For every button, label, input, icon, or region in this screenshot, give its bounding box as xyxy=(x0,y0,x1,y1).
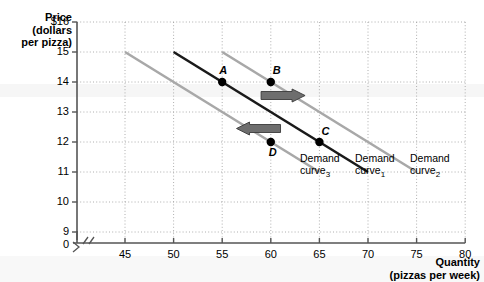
x-axis-tick-label: 50 xyxy=(159,248,189,260)
point-label-B: B xyxy=(273,64,281,76)
x-axis-tick-label: 55 xyxy=(207,248,237,260)
demand-curve-label-line1: Demand xyxy=(300,152,352,164)
demand-curve-label-1: Demandcurve1 xyxy=(355,152,407,181)
demand-curve-label-line2: curve1 xyxy=(355,164,407,181)
point-label-A: A xyxy=(219,64,227,76)
y-axis-tick-label: $16 xyxy=(39,15,69,27)
y-axis-tick-label: 12 xyxy=(39,135,69,147)
y-axis-tick-label-zero: 0 xyxy=(39,238,69,250)
demand-curve-label-subscript: 3 xyxy=(326,170,330,179)
x-axis-tick-label: 65 xyxy=(304,248,334,260)
x-axis-tick-label: 60 xyxy=(256,248,286,260)
demand-curve-chart xyxy=(0,0,484,282)
y-axis-tick-label: 14 xyxy=(39,75,69,87)
x-axis-tick-label: 45 xyxy=(110,248,140,260)
x-axis-tick-label: 80 xyxy=(450,248,480,260)
y-axis-tick-label: 9 xyxy=(39,225,69,237)
data-point-B xyxy=(267,78,275,86)
data-point-A xyxy=(218,78,226,86)
y-axis-tick-label: 15 xyxy=(39,45,69,57)
demand-curve-label-3: Demandcurve3 xyxy=(300,152,352,181)
y-axis-tick-label: 13 xyxy=(39,105,69,117)
point-label-C: C xyxy=(321,125,329,137)
demand-curve-label-line1: Demand xyxy=(355,152,407,164)
demand-curve-label-line2: curve3 xyxy=(300,164,352,181)
demand-curve-label-line2: curve2 xyxy=(410,164,462,181)
data-point-D xyxy=(267,138,275,146)
y-axis-tick-label: 11 xyxy=(39,165,69,177)
y-axis-tick-label: 10 xyxy=(39,195,69,207)
demand-curve-label-subscript: 2 xyxy=(436,170,440,179)
x-axis-tick-label: 75 xyxy=(402,248,432,260)
demand-curve-label-subscript: 1 xyxy=(381,170,385,179)
demand-curve-label-line1: Demand xyxy=(410,152,462,164)
x-axis-tick-label: 70 xyxy=(353,248,383,260)
demand-curve-label-2: Demandcurve2 xyxy=(410,152,462,181)
point-label-D: D xyxy=(269,146,277,158)
data-point-C xyxy=(315,138,323,146)
